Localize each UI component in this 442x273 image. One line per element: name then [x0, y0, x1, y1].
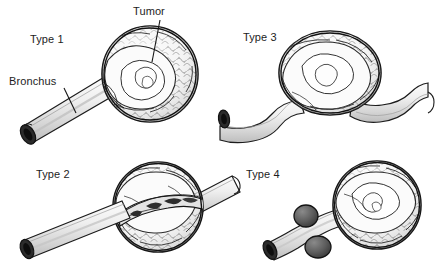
satellite-nodule-lower	[305, 236, 331, 258]
label-type-4: Type 4	[246, 168, 280, 180]
satellite-nodule-upper	[294, 205, 318, 227]
illustration-canvas	[0, 0, 442, 273]
tumor-type-1	[102, 26, 198, 122]
panel-type-3	[217, 31, 434, 143]
panel-type-4	[260, 161, 422, 262]
label-type-1: Type 1	[30, 33, 64, 45]
label-type-2: Type 2	[36, 168, 70, 180]
bronchus-type-2-proximal	[18, 201, 130, 261]
label-bronchus: Bronchus	[9, 75, 56, 87]
label-type-3: Type 3	[243, 31, 277, 43]
label-tumor: Tumor	[133, 5, 165, 17]
tumor-type-3	[279, 31, 381, 115]
figure-bronchial-tumor-types: Type 1 Type 2 Type 3 Type 4 Tumor Bronch…	[0, 0, 442, 273]
tumor-type-4	[333, 161, 422, 249]
tumor-type-2	[113, 162, 206, 252]
